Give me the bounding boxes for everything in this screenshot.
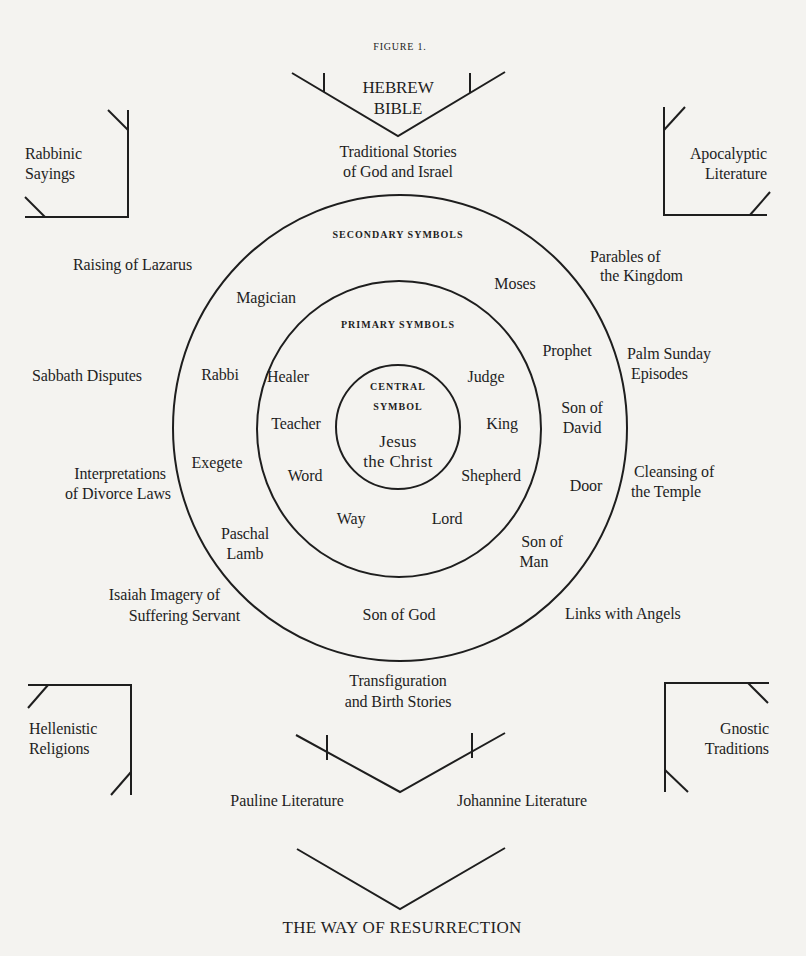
primary-healer: Healer — [267, 367, 309, 386]
central-symbol-line1: Jesus — [379, 432, 416, 451]
primary-way: Way — [337, 509, 366, 528]
primary-symbols-heading: PRIMARY SYMBOLS — [341, 318, 455, 332]
hebrew-bible-line2: BIBLE — [374, 98, 423, 119]
episode-divorce-line2: of Divorce Laws — [65, 484, 171, 503]
apocalyptic-line1: Apocalyptic — [690, 144, 767, 163]
secondary-son-of-david-line2: David — [563, 418, 602, 437]
output-pauline: Pauline Literature — [230, 791, 343, 810]
gnostic-line2: Traditions — [705, 739, 769, 758]
secondary-moses: Moses — [494, 274, 535, 293]
episode-lazarus: Raising of Lazarus — [73, 255, 192, 274]
figure-label: FIGURE 1. — [373, 37, 426, 56]
secondary-paschal-line2: Lamb — [227, 544, 264, 563]
primary-king: King — [486, 414, 518, 433]
episode-parables-line2: the Kingdom — [600, 266, 683, 285]
secondary-son-of-god: Son of God — [363, 605, 436, 624]
traditional-stories-line1: Traditional Stories — [339, 142, 456, 161]
episode-temple-line1: Cleansing of — [634, 462, 714, 481]
episode-divorce-line1: Interpretations — [74, 464, 166, 483]
secondary-rabbi: Rabbi — [201, 365, 239, 384]
primary-lord: Lord — [432, 509, 463, 528]
secondary-son-of-man-line1: Son of — [521, 532, 563, 551]
secondary-symbols-heading: SECONDARY SYMBOLS — [332, 228, 463, 242]
hellenistic-line2: Religions — [29, 739, 89, 758]
episode-transfiguration-line1: Transfiguration — [349, 671, 446, 690]
secondary-exegete: Exegete — [192, 453, 243, 472]
episode-transfiguration-line2: and Birth Stories — [345, 692, 452, 711]
secondary-magician: Magician — [236, 288, 296, 307]
output-johannine: Johannine Literature — [457, 791, 587, 810]
central-heading-line2: SYMBOL — [373, 400, 422, 414]
primary-shepherd: Shepherd — [461, 466, 521, 485]
episode-palm-line2: Episodes — [631, 364, 688, 383]
episode-parables-line1: Parables of — [590, 247, 660, 266]
primary-judge: Judge — [468, 367, 505, 386]
gnostic-line1: Gnostic — [720, 719, 769, 738]
episode-temple-line2: the Temple — [631, 482, 701, 501]
secondary-son-of-man-line2: Man — [519, 552, 548, 571]
primary-teacher: Teacher — [271, 414, 321, 433]
rabbinic-line1: Rabbinic — [25, 144, 82, 163]
episode-isaiah-line1: Isaiah Imagery of — [109, 585, 220, 604]
primary-word: Word — [288, 466, 323, 485]
secondary-son-of-david-line1: Son of — [561, 398, 603, 417]
rabbinic-line2: Sayings — [25, 164, 75, 183]
secondary-prophet: Prophet — [542, 341, 591, 360]
outer-ring — [173, 195, 627, 661]
final-funnel — [297, 848, 505, 909]
apocalyptic-line2: Literature — [705, 164, 767, 183]
central-symbol-line2: the Christ — [363, 452, 433, 471]
episode-palm-line1: Palm Sunday — [627, 344, 711, 363]
hellenistic-line1: Hellenistic — [29, 719, 97, 738]
hebrew-bible-line1: HEBREW — [362, 77, 433, 98]
traditional-stories-line2: of God and Israel — [343, 162, 453, 181]
central-heading-line1: CENTRAL — [370, 380, 426, 394]
secondary-door: Door — [570, 476, 602, 495]
episode-isaiah-line2: Suffering Servant — [129, 606, 240, 625]
conclusion-title: THE WAY OF RESURRECTION — [282, 918, 521, 937]
episode-sabbath: Sabbath Disputes — [32, 366, 142, 385]
secondary-paschal-line1: Paschal — [221, 524, 269, 543]
episode-angels: Links with Angels — [565, 604, 681, 623]
